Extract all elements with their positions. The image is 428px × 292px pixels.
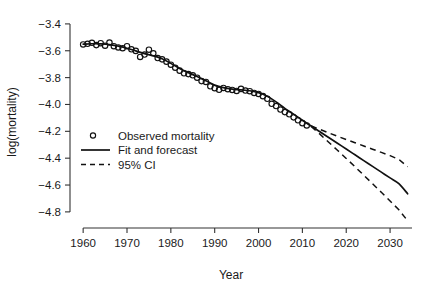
y-tick-label: −4.2 bbox=[38, 125, 61, 137]
y-axis-title: log(mortality) bbox=[5, 87, 19, 156]
y-tick-label: −4.0 bbox=[38, 98, 61, 110]
x-tick-label: 1980 bbox=[158, 237, 184, 249]
y-tick-label: −4.4 bbox=[38, 152, 61, 164]
y-tick-label: −3.8 bbox=[38, 72, 61, 84]
y-tick-label: −3.4 bbox=[38, 18, 61, 30]
y-tick-label: −3.6 bbox=[38, 45, 61, 57]
x-tick-label: 2020 bbox=[333, 237, 359, 249]
legend-label-observed-mortality: Observed mortality bbox=[118, 130, 215, 142]
mortality-forecast-chart: −3.4−3.6−3.8−4.0−4.2−4.4−4.6−4.8 1960197… bbox=[0, 0, 428, 292]
x-tick-label: 2030 bbox=[377, 237, 403, 249]
legend-label-95-ci: 95% CI bbox=[118, 159, 156, 171]
x-tick-label: 2010 bbox=[290, 237, 316, 249]
y-tick-label: −4.8 bbox=[38, 206, 61, 218]
x-tick-label: 1990 bbox=[202, 237, 228, 249]
x-axis-title: Year bbox=[219, 268, 243, 282]
x-tick-label: 1970 bbox=[114, 237, 140, 249]
x-tick-label: 2000 bbox=[246, 237, 272, 249]
y-tick-label: −4.6 bbox=[38, 179, 61, 191]
chart-figure: −3.4−3.6−3.8−4.0−4.2−4.4−4.6−4.8 1960197… bbox=[0, 0, 428, 292]
x-tick-label: 1960 bbox=[70, 237, 96, 249]
legend-label-fit-and-forecast: Fit and forecast bbox=[118, 144, 198, 156]
